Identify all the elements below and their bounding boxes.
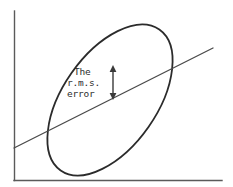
- figure-container: The r.m.s. error: [0, 0, 233, 187]
- annotation-line-1: The: [74, 66, 91, 77]
- rms-error-diagram: The r.m.s. error: [0, 0, 233, 187]
- annotation-line-3: error: [67, 88, 95, 99]
- data-cloud-ellipse: [22, 3, 198, 187]
- annotation-line-2: r.m.s.: [67, 77, 100, 88]
- arrow-up-head-icon: [110, 65, 117, 72]
